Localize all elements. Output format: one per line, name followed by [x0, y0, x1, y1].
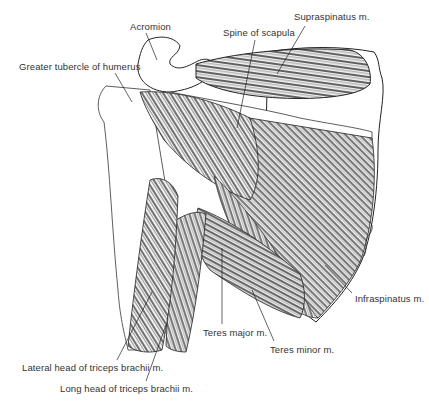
anatomy-figure: Acromion Spine of scapula Supraspinatus …	[0, 0, 429, 404]
label-long-head-triceps: Long head of triceps brachii m.	[60, 383, 193, 394]
label-spine-of-scapula: Spine of scapula	[223, 27, 295, 38]
label-teres-minor: Teres minor m.	[270, 344, 334, 355]
supraspinatus-muscle	[196, 49, 370, 99]
label-greater-tubercle: Greater tubercle of humerus	[19, 61, 141, 72]
label-acromion: Acromion	[130, 21, 171, 32]
label-infraspinatus: Infraspinatus m.	[355, 293, 424, 304]
label-supraspinatus: Supraspinatus m.	[294, 11, 370, 22]
label-teres-major: Teres major m.	[203, 327, 267, 338]
label-lateral-head-triceps: Lateral head of triceps brachii m.	[22, 362, 163, 373]
